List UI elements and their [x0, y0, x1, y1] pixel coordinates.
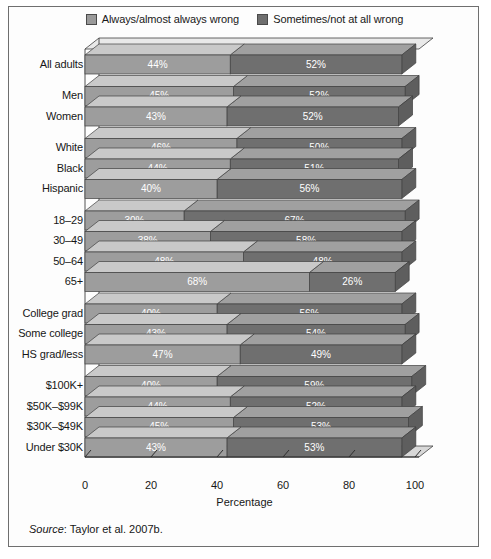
- bar-value-light: 47%: [153, 349, 173, 360]
- source-label: Source: [29, 523, 64, 535]
- tick-label: 0: [82, 479, 88, 491]
- legend-swatch-light-icon: [86, 14, 97, 25]
- tick-label: 60: [277, 479, 289, 491]
- bar-value-light: 43%: [146, 111, 166, 122]
- category-label: $100K+: [46, 380, 83, 391]
- bar-value-dark: 49%: [311, 349, 331, 360]
- category-label: $30K–$49K: [27, 421, 83, 432]
- bars-area: 44%52%45%52%43%52%46%50%44%51%40%56%30%6…: [79, 33, 471, 483]
- bar-row: 44%52%: [85, 44, 416, 74]
- legend-swatch-dark-icon: [257, 14, 268, 25]
- bar-value-light: 44%: [148, 59, 168, 70]
- tick-label: 80: [343, 479, 355, 491]
- legend-entry-always-wrong: Always/almost always wrong: [86, 13, 239, 25]
- value-axis-title: Percentage: [9, 496, 480, 508]
- category-label: All adults: [40, 59, 83, 70]
- category-label: College grad: [22, 308, 83, 319]
- bar-value-light: 68%: [187, 276, 207, 287]
- bar-value-light: 40%: [141, 183, 161, 194]
- category-axis-labels: All adultsMenWomenWhiteBlackHispanic18–2…: [9, 33, 87, 479]
- legend-label-always-wrong: Always/almost always wrong: [102, 13, 239, 25]
- legend-label-sometimes-wrong: Sometimes/not at all wrong: [273, 13, 403, 25]
- figure-frame: Always/almost always wrong Sometimes/not…: [8, 6, 479, 547]
- bar-value-dark: 56%: [299, 183, 319, 194]
- bar-row: 47%49%: [85, 334, 416, 364]
- bar-row: 40%56%: [85, 169, 416, 199]
- chart-legend: Always/almost always wrong Sometimes/not…: [9, 13, 480, 25]
- legend-entry-sometimes-wrong: Sometimes/not at all wrong: [257, 13, 403, 25]
- bar-value-dark: 53%: [304, 442, 324, 453]
- bar-row: 43%52%: [85, 96, 413, 126]
- bar-value-dark: 52%: [306, 59, 326, 70]
- category-label: HS grad/less: [22, 349, 83, 360]
- source-note: Source: Taylor et al. 2007b.: [29, 523, 163, 535]
- chart-plot-area: All adultsMenWomenWhiteBlackHispanic18–2…: [9, 33, 480, 503]
- stacked-bar-graphic: 44%52%45%52%43%52%46%50%44%51%40%56%30%6…: [79, 33, 471, 483]
- category-label: Hispanic: [42, 183, 83, 194]
- bar-value-dark: 52%: [303, 111, 323, 122]
- bar-row: 68%26%: [85, 262, 409, 292]
- category-label: Under $30K: [26, 442, 83, 453]
- bar-row: 43%53%: [85, 427, 416, 457]
- tick-label: 40: [211, 479, 223, 491]
- bar-value-dark: 26%: [342, 276, 362, 287]
- category-label: $50K–$99K: [27, 401, 83, 412]
- tick-label: 20: [145, 479, 157, 491]
- category-label: Some college: [18, 328, 83, 339]
- tick-label: 100: [406, 479, 424, 491]
- source-citation: : Taylor et al. 2007b.: [64, 523, 163, 535]
- category-label: Women: [46, 111, 83, 122]
